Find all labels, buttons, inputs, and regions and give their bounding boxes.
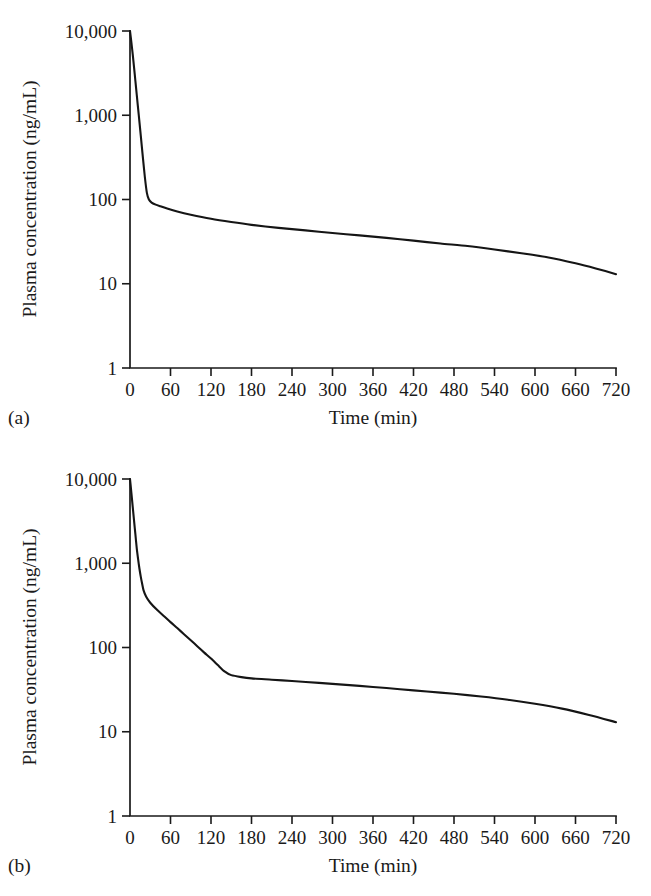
x-tick-label: 180 <box>237 379 266 400</box>
x-ticks-a <box>171 368 617 376</box>
x-tick-label: 420 <box>399 379 428 400</box>
data-curve-b <box>130 479 616 722</box>
chart-b: 1101001,00010,000 0601201802403003604204… <box>0 448 651 896</box>
x-tick-label: 360 <box>359 379 388 400</box>
x-tick-label: 540 <box>480 827 509 848</box>
x-tick-label: 300 <box>318 379 347 400</box>
x-tick-label: 480 <box>440 827 469 848</box>
y-tick-label: 100 <box>89 189 118 210</box>
panel-label-b: (b) <box>8 855 31 877</box>
x-tick-label: 660 <box>561 827 590 848</box>
data-curve-a <box>130 31 616 274</box>
y-tick-label: 10 <box>98 721 117 742</box>
x-tick-label: 120 <box>197 379 226 400</box>
x-tick-labels-b: 060120180240300360420480540600660720 <box>125 827 630 848</box>
y-tick-label: 100 <box>89 637 118 658</box>
x-tick-label: 240 <box>278 379 307 400</box>
x-tick-label: 540 <box>480 379 509 400</box>
y-tick-label: 1,000 <box>74 553 117 574</box>
axis-lines-a <box>130 31 616 368</box>
y-axis-title-a: Plasma concentration (ng/mL) <box>19 80 41 317</box>
x-tick-label: 300 <box>318 827 347 848</box>
x-tick-label: 600 <box>521 379 550 400</box>
x-tick-label: 180 <box>237 827 266 848</box>
x-axis-title-b: Time (min) <box>329 855 418 877</box>
x-tick-label: 0 <box>125 379 135 400</box>
chart-a: 1101001,00010,000 0601201802403003604204… <box>0 0 651 448</box>
figure-panel-b: 1101001,00010,000 0601201802403003604204… <box>0 448 651 896</box>
axes-a <box>122 31 616 376</box>
panel-label-a: (a) <box>8 407 30 429</box>
y-tick-labels-b: 1101001,00010,000 <box>65 469 117 827</box>
x-tick-label: 0 <box>125 827 135 848</box>
x-tick-label: 60 <box>161 379 180 400</box>
x-tick-label: 600 <box>521 827 550 848</box>
figure-panel-a: 1101001,00010,000 0601201802403003604204… <box>0 0 651 448</box>
y-tick-label: 1,000 <box>74 105 117 126</box>
x-tick-labels-a: 060120180240300360420480540600660720 <box>125 379 630 400</box>
y-tick-labels-a: 1101001,00010,000 <box>65 21 117 379</box>
x-tick-label: 360 <box>359 827 388 848</box>
x-tick-label: 660 <box>561 379 590 400</box>
y-ticks-b <box>122 479 130 816</box>
x-ticks-b <box>171 816 617 824</box>
y-tick-label: 10 <box>98 273 117 294</box>
axes-b <box>122 479 616 824</box>
x-tick-label: 720 <box>602 379 631 400</box>
y-tick-label: 1 <box>108 358 118 379</box>
x-tick-label: 720 <box>602 827 631 848</box>
x-tick-label: 120 <box>197 827 226 848</box>
x-tick-label: 60 <box>161 827 180 848</box>
x-tick-label: 240 <box>278 827 307 848</box>
x-tick-label: 480 <box>440 379 469 400</box>
x-tick-label: 420 <box>399 827 428 848</box>
y-tick-label: 10,000 <box>65 469 117 490</box>
y-ticks-a <box>122 31 130 368</box>
y-axis-title-b: Plasma concentration (ng/mL) <box>19 528 41 765</box>
x-axis-title-a: Time (min) <box>329 407 418 429</box>
y-tick-label: 10,000 <box>65 21 117 42</box>
axis-lines-b <box>130 479 616 816</box>
y-tick-label: 1 <box>108 806 118 827</box>
